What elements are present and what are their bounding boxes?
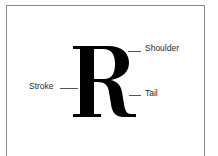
tail-leader-line xyxy=(129,95,141,96)
letter-r-glyph xyxy=(0,0,218,156)
stroke-leader-line xyxy=(60,88,78,89)
tail-label: Tail xyxy=(145,88,158,98)
shoulder-leader-line xyxy=(128,51,141,52)
shoulder-label: Shoulder xyxy=(145,43,179,53)
stroke-label: Stroke xyxy=(29,81,54,91)
